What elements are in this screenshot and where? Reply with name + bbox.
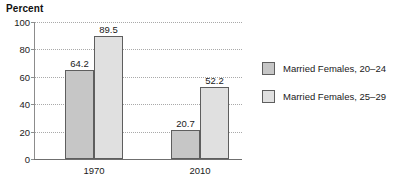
gridline-100: [35, 22, 242, 23]
gridline-80: [35, 49, 242, 50]
legend-swatch-icon-series-0: [262, 62, 275, 75]
plot-area: 64.2 89.5 20.7 52.2 1970 2010: [34, 22, 242, 160]
y-tick-label-0: 0: [25, 154, 30, 165]
y-axis-tick-labels: 100 80 60 40 20 0: [0, 22, 30, 160]
legend-label-series-0: Married Females, 20–24: [283, 63, 386, 74]
chart-legend: Married Females, 20–24 Married Females, …: [262, 56, 404, 112]
y-tick-label-100: 100: [14, 17, 30, 28]
y-tick-label-40: 40: [19, 99, 30, 110]
y-tick-label-60: 60: [19, 71, 30, 82]
x-axis-line: [34, 159, 242, 160]
bar-1970-married-females-25-29[interactable]: [94, 36, 123, 160]
y-tick-mark-100: [31, 22, 34, 23]
y-axis-line: [34, 22, 35, 160]
chart-root: Percent 100 80 60 40 20 0 64.2 89.5 20.7: [0, 0, 407, 191]
bar-2010-married-females-20-24[interactable]: [171, 130, 200, 159]
bar-value-1970-series-0: 64.2: [65, 58, 94, 69]
legend-label-series-1: Married Females, 25–29: [283, 91, 386, 102]
bar-2010-married-females-25-29[interactable]: [200, 87, 229, 159]
x-tick-label-1970: 1970: [83, 165, 104, 176]
legend-item-married-females-20-24[interactable]: Married Females, 20–24: [262, 56, 404, 80]
y-tick-label-80: 80: [19, 44, 30, 55]
y-tick-label-20: 20: [19, 126, 30, 137]
legend-item-married-females-25-29[interactable]: Married Females, 25–29: [262, 84, 404, 108]
x-tick-label-2010: 2010: [189, 165, 210, 176]
y-tick-mark-60: [31, 77, 34, 78]
y-tick-mark-40: [31, 104, 34, 105]
y-tick-mark-20: [31, 132, 34, 133]
bar-1970-married-females-20-24[interactable]: [65, 70, 94, 159]
bar-value-2010-series-0: 20.7: [171, 118, 200, 129]
chart-axis-title-percent: Percent: [6, 3, 43, 14]
bar-value-1970-series-1: 89.5: [94, 24, 123, 35]
y-tick-mark-0: [31, 159, 34, 160]
y-tick-mark-80: [31, 49, 34, 50]
legend-swatch-icon-series-1: [262, 90, 275, 103]
bar-value-2010-series-1: 52.2: [200, 75, 229, 86]
